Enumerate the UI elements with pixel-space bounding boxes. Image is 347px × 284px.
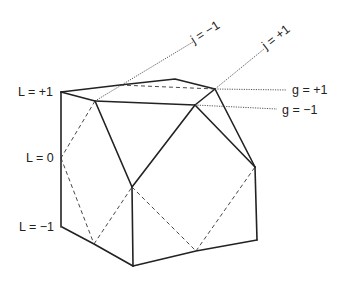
right-slope-edge	[215, 89, 255, 167]
left-bottom-dashed	[94, 187, 132, 244]
top-back-edge	[61, 79, 215, 92]
guide-lines	[95, 42, 287, 109]
label-L-minus1: L = −1	[19, 220, 54, 234]
right-bottom-dashed	[196, 167, 255, 251]
front-diagonal-left	[95, 101, 132, 187]
guide-g-minus1	[195, 105, 277, 109]
center-vertical-edge	[132, 187, 133, 266]
bottom-left-edge	[62, 227, 133, 266]
label-L-zero: L = 0	[26, 151, 54, 165]
label-j-plus1: j = +1	[258, 22, 292, 53]
bottom-right-edge	[133, 240, 257, 266]
left-upper-dashed	[61, 101, 95, 158]
top-left-edge	[61, 92, 95, 101]
guide-j-plus1	[215, 49, 264, 89]
guide-g-plus1	[215, 89, 287, 90]
front-diagonal-right	[132, 105, 195, 187]
right-vertical-edge	[255, 167, 257, 240]
top-right-edge	[195, 89, 215, 105]
guide-j-minus1	[95, 42, 193, 101]
label-g-plus1: g = +1	[292, 83, 327, 97]
labels: L = +1 L = 0 L = −1 g = +1 g = −1 j = −1…	[18, 18, 327, 234]
label-j-minus1: j = −1	[187, 18, 222, 47]
label-L-plus1: L = +1	[18, 85, 53, 99]
label-g-minus1: g = −1	[282, 103, 317, 117]
top-front-edge	[95, 101, 195, 105]
center-bottom-dashed	[132, 187, 196, 251]
left-lower-dashed	[61, 158, 94, 244]
polyhedron-diagram: L = +1 L = 0 L = −1 g = +1 g = −1 j = −1…	[0, 0, 347, 284]
visible-edges	[61, 79, 257, 266]
right-inner-edge	[195, 105, 255, 167]
